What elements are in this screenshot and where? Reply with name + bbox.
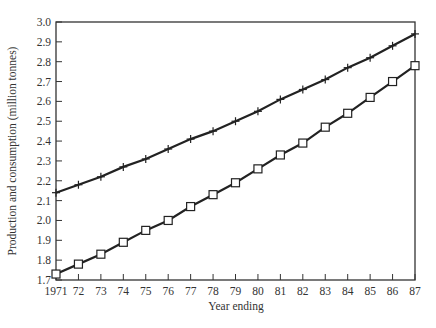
y-tick-label: 2.1 xyxy=(37,195,52,207)
plus-marker xyxy=(276,95,284,103)
square-marker xyxy=(232,179,240,187)
y-tick-label: 2.6 xyxy=(37,95,52,107)
plus-marker xyxy=(187,135,195,143)
series-line xyxy=(56,34,415,193)
series-group xyxy=(52,30,419,278)
x-tick-label: 85 xyxy=(364,285,376,297)
square-marker xyxy=(344,109,352,117)
y-tick-label: 1.9 xyxy=(37,234,52,246)
y-tick-label: 1.8 xyxy=(37,254,52,266)
x-tick-label: 73 xyxy=(95,285,107,297)
square-marker xyxy=(254,165,262,173)
plus-marker xyxy=(321,76,329,84)
x-tick-label: 1971 xyxy=(45,285,68,297)
square-marker xyxy=(366,93,374,101)
x-tick-label: 82 xyxy=(297,285,309,297)
square-marker xyxy=(164,216,172,224)
plus-marker xyxy=(254,107,262,115)
square-marker xyxy=(97,250,105,258)
square-marker xyxy=(119,238,127,246)
y-tick-label: 2.5 xyxy=(37,115,52,127)
line-chart: 1.71.81.92.02.12.22.32.42.52.62.72.82.93… xyxy=(0,0,436,328)
x-tick-label: 87 xyxy=(409,285,421,297)
square-marker xyxy=(299,139,307,147)
y-tick-label: 2.0 xyxy=(37,214,52,226)
square-marker xyxy=(389,78,397,86)
y-tick-label: 2.8 xyxy=(37,56,52,68)
plus-marker xyxy=(74,181,82,189)
square-marker xyxy=(411,62,419,70)
plus-marker xyxy=(97,173,105,181)
x-tick-label: 76 xyxy=(162,285,174,297)
x-tick-label: 78 xyxy=(207,285,219,297)
x-tick-label: 80 xyxy=(252,285,264,297)
y-tick-label: 2.9 xyxy=(37,36,52,48)
plus-marker xyxy=(164,145,172,153)
square-marker xyxy=(276,151,284,159)
plus-marker xyxy=(142,155,150,163)
plus-marker xyxy=(389,42,397,50)
y-tick-label: 2.2 xyxy=(37,175,52,187)
x-tick-label: 83 xyxy=(320,285,332,297)
x-tick-label: 86 xyxy=(387,285,399,297)
y-tick-label: 2.4 xyxy=(37,135,52,147)
x-tick-label: 72 xyxy=(73,285,85,297)
square-marker xyxy=(142,226,150,234)
square-marker xyxy=(321,123,329,131)
y-axis-title: Production and consumption (million tonn… xyxy=(6,46,19,255)
series-line xyxy=(56,66,415,274)
plus-marker xyxy=(119,163,127,171)
x-axis-title: Year ending xyxy=(208,300,264,313)
square-marker xyxy=(52,270,60,278)
plus-marker xyxy=(366,54,374,62)
y-tick-label: 2.7 xyxy=(37,76,52,88)
x-tick-label: 75 xyxy=(140,285,152,297)
plus-marker xyxy=(232,117,240,125)
x-tick-label: 77 xyxy=(185,285,197,297)
x-tick-label: 74 xyxy=(118,285,130,297)
y-tick-label: 3.0 xyxy=(37,16,52,28)
plus-marker xyxy=(344,64,352,72)
plus-marker xyxy=(411,30,419,38)
x-tick-label: 84 xyxy=(342,285,354,297)
x-tick-label: 81 xyxy=(275,285,287,297)
plus-marker xyxy=(299,85,307,93)
square-marker xyxy=(209,191,217,199)
x-axis: 197172737475767778798081828384858687 xyxy=(45,274,422,297)
square-marker xyxy=(74,260,82,268)
plus-marker xyxy=(52,189,60,197)
square-marker xyxy=(187,203,195,211)
x-tick-label: 79 xyxy=(230,285,242,297)
plus-marker xyxy=(209,127,217,135)
y-tick-label: 2.3 xyxy=(37,155,52,167)
y-axis: 1.71.81.92.02.12.22.32.42.52.62.72.82.93… xyxy=(37,16,62,286)
